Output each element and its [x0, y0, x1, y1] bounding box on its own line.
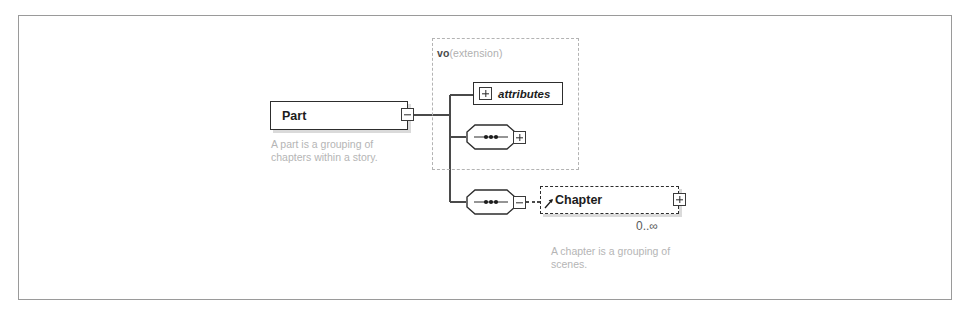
attributes-node[interactable]: attributes	[473, 82, 563, 105]
extension-group-label: vo(extension)	[437, 47, 503, 59]
extension-prefix: vo	[437, 47, 449, 59]
element-name-part: Part	[282, 109, 306, 123]
expand-plus-icon-chapter[interactable]	[673, 193, 686, 206]
sequence-icon-1[interactable]	[466, 124, 516, 150]
collapse-minus-icon-part[interactable]	[401, 108, 414, 121]
reference-arrow-icon	[544, 198, 554, 209]
expand-plus-icon-attributes[interactable]	[479, 87, 492, 100]
diagram-canvas: vo(extension) Part A part is a grouping …	[0, 0, 970, 311]
extension-kind: (extension)	[449, 47, 502, 59]
sequence-icon-2[interactable]	[466, 189, 516, 215]
annotation-part: A part is a grouping of chapters within …	[271, 138, 431, 164]
expand-plus-icon-sequence-1[interactable]	[513, 131, 526, 144]
element-name-chapter: Chapter	[555, 193, 602, 207]
element-box-chapter[interactable]: Chapter	[540, 186, 679, 214]
annotation-chapter: A chapter is a grouping of scenes.	[551, 245, 721, 271]
cardinality-chapter: 0..∞	[636, 219, 658, 233]
attributes-label: attributes	[498, 88, 550, 100]
collapse-minus-icon-sequence-2[interactable]	[513, 196, 526, 209]
element-box-part[interactable]: Part	[270, 101, 408, 130]
